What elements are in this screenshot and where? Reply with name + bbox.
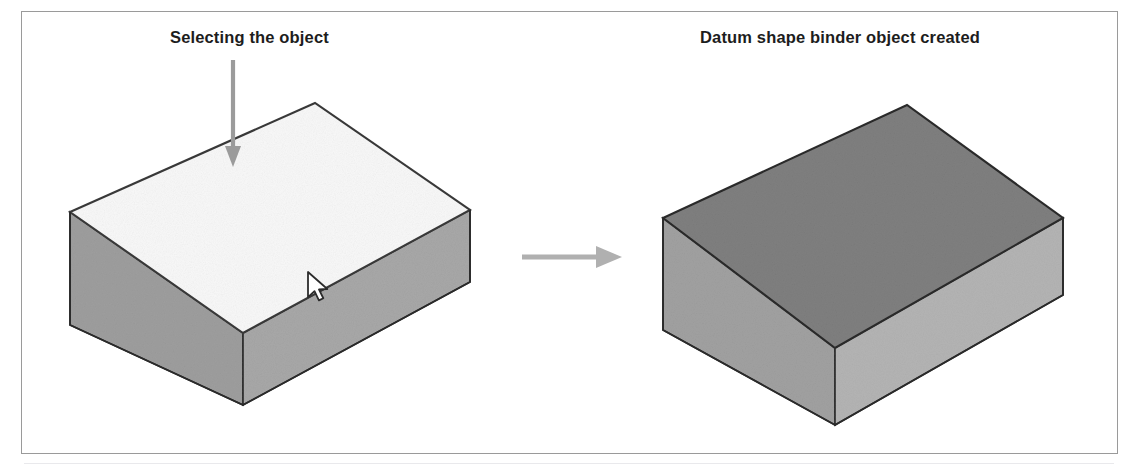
- solid-after[interactable]: [663, 105, 1063, 425]
- caption-divider: [24, 463, 1114, 464]
- panel-label-after: Datum shape binder object created: [700, 28, 980, 47]
- solid-before[interactable]: [70, 103, 470, 405]
- panel-label-before: Selecting the object: [170, 28, 329, 47]
- right-arrow-icon: [522, 246, 622, 268]
- figure-page: Selecting the object Datum shape binder …: [0, 0, 1137, 471]
- diagram-canvas: [0, 0, 1137, 471]
- down-arrow-icon: [225, 60, 241, 167]
